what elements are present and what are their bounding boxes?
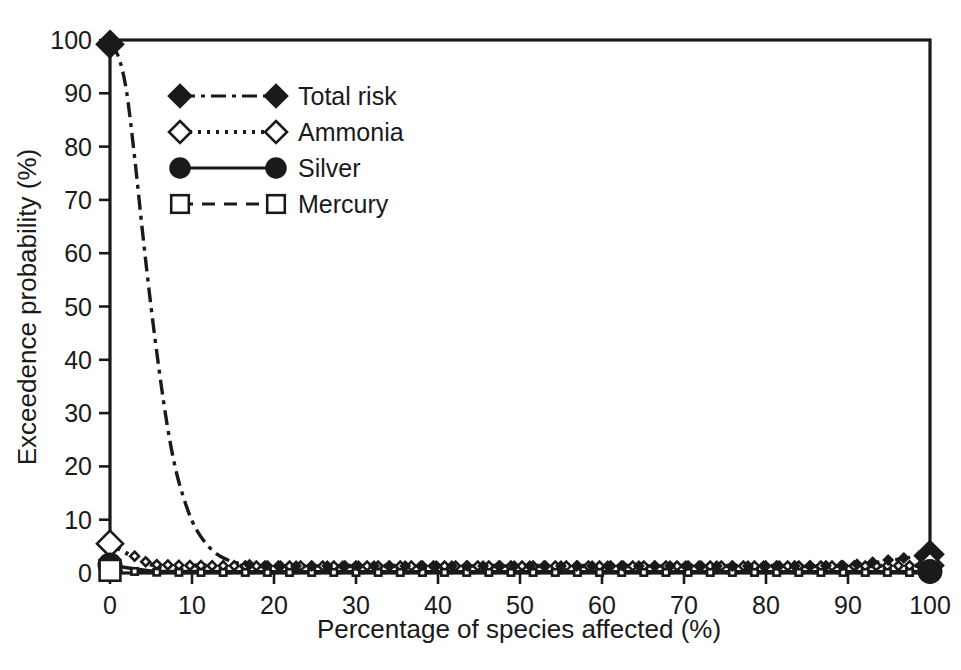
data-marker <box>697 562 705 570</box>
data-marker <box>806 562 814 570</box>
data-marker <box>853 560 861 568</box>
data-marker <box>292 562 300 570</box>
data-marker <box>822 561 830 569</box>
data-marker <box>354 562 362 570</box>
data-marker <box>323 562 331 570</box>
data-marker <box>230 561 239 570</box>
data-marker <box>308 562 316 570</box>
data-marker <box>868 558 876 566</box>
data-marker <box>619 562 627 570</box>
data-marker <box>650 562 658 570</box>
legend-label: Silver <box>298 154 361 182</box>
data-marker <box>100 560 121 581</box>
data-marker <box>198 569 204 575</box>
y-tick-label: 100 <box>50 26 92 54</box>
data-marker <box>744 562 752 570</box>
data-marker <box>186 561 195 570</box>
data-marker <box>441 569 447 575</box>
data-marker <box>796 569 802 575</box>
data-marker <box>666 562 674 570</box>
x-tick-label: 20 <box>260 591 288 619</box>
data-marker <box>397 569 403 575</box>
data-marker <box>448 562 456 570</box>
y-tick-label: 80 <box>64 133 92 161</box>
y-tick-label: 10 <box>64 506 92 534</box>
data-marker <box>163 561 172 570</box>
y-tick-label: 20 <box>64 452 92 480</box>
data-marker <box>331 569 337 575</box>
legend-marker <box>171 195 189 213</box>
data-marker <box>479 562 487 570</box>
y-tick-label: 30 <box>64 399 92 427</box>
data-marker <box>339 562 347 570</box>
data-marker <box>463 562 471 570</box>
x-tick-label: 90 <box>834 591 862 619</box>
data-marker <box>526 562 534 570</box>
y-tick-label: 0 <box>78 559 92 587</box>
data-marker <box>541 562 549 570</box>
data-marker <box>759 562 767 570</box>
data-marker <box>894 561 903 570</box>
chart-figure: 0102030405060708090100 01020304050607080… <box>0 0 961 670</box>
data-marker <box>862 569 868 575</box>
data-marker <box>791 562 799 570</box>
data-marker <box>154 569 160 575</box>
data-marker <box>596 569 602 575</box>
x-tick-label: 100 <box>909 591 951 619</box>
data-marker <box>130 552 139 561</box>
data-marker <box>588 562 596 570</box>
legend-marker <box>267 159 286 178</box>
y-tick-label: 40 <box>64 346 92 374</box>
legend-label: Total risk <box>298 82 397 110</box>
y-axis-title: Exceedence probability (%) <box>12 149 42 466</box>
data-marker <box>751 569 757 575</box>
exceedence-probability-chart: 0102030405060708090100 01020304050607080… <box>0 0 961 670</box>
data-marker <box>728 562 736 570</box>
data-marker <box>131 568 137 574</box>
data-marker <box>510 562 518 570</box>
legend-label: Mercury <box>298 190 389 218</box>
data-marker <box>242 569 248 575</box>
y-tick-label: 90 <box>64 79 92 107</box>
x-tick-label: 0 <box>103 591 117 619</box>
y-tick-label: 60 <box>64 239 92 267</box>
data-marker <box>635 562 643 570</box>
data-marker <box>884 569 890 575</box>
data-marker <box>572 562 580 570</box>
data-marker <box>775 562 783 570</box>
legend-marker <box>267 195 285 213</box>
data-marker <box>385 562 393 570</box>
data-marker <box>837 561 845 569</box>
data-marker <box>818 569 824 575</box>
data-marker <box>432 562 440 570</box>
data-marker <box>152 560 161 569</box>
y-tick-label: 70 <box>64 186 92 214</box>
data-marker <box>900 554 908 562</box>
data-marker <box>906 569 912 575</box>
data-marker <box>681 562 689 570</box>
x-tick-label: 80 <box>752 591 780 619</box>
data-marker <box>261 562 269 570</box>
data-marker <box>370 562 378 570</box>
data-marker <box>401 562 409 570</box>
data-marker <box>557 562 565 570</box>
data-marker <box>276 562 284 570</box>
data-marker <box>486 569 492 575</box>
data-marker <box>707 569 713 575</box>
data-marker <box>220 569 226 575</box>
data-marker <box>641 569 647 575</box>
data-marker <box>417 562 425 570</box>
y-tick-label: 50 <box>64 293 92 321</box>
x-tick-label: 10 <box>178 591 206 619</box>
data-marker <box>286 569 292 575</box>
data-marker <box>884 556 892 564</box>
data-marker <box>552 569 558 575</box>
data-marker <box>176 569 182 575</box>
data-marker <box>919 560 941 582</box>
legend-marker <box>171 159 190 178</box>
data-marker <box>245 561 253 569</box>
data-marker <box>604 562 612 570</box>
data-marker <box>141 557 150 566</box>
data-marker <box>208 561 217 570</box>
x-axis-title: Percentage of species affected (%) <box>317 614 721 644</box>
